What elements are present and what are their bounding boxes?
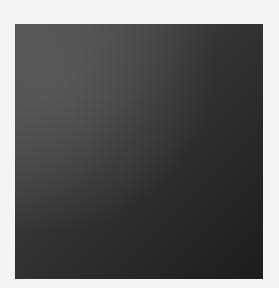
image-background (0, 0, 279, 288)
noise-texture (15, 24, 263, 279)
dark-gradient-square (15, 24, 263, 279)
